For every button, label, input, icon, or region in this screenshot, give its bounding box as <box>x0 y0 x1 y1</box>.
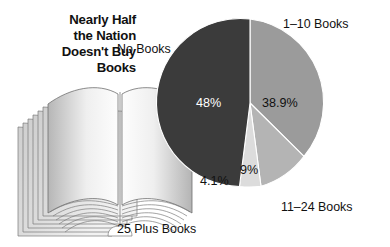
pie-category-label-25-plus-books: 25 Plus Books <box>117 222 196 236</box>
pie-slices <box>156 18 323 187</box>
pie-category-label-1-10-books: 1–10 Books <box>283 17 348 31</box>
pie-value-label-no-books: 48% <box>196 96 221 110</box>
pie-value-label-1-10-books: 38.9% <box>262 96 298 110</box>
pie-category-label-11-24-books: 11–24 Books <box>281 200 352 214</box>
pie-category-label-no-books: No Books <box>117 42 171 56</box>
infographic-root: Nearly Half the Nation Doesn't Buy Books… <box>0 0 390 247</box>
pie-value-label-25-plus-books: 4.1% <box>200 174 229 188</box>
pie-value-label-11-24-books: 9% <box>240 163 258 177</box>
